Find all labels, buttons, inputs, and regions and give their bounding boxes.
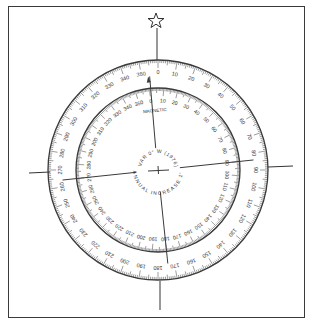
degree-label: 30 bbox=[182, 102, 190, 110]
degree-tick bbox=[96, 116, 98, 118]
degree-tick bbox=[248, 110, 251, 112]
degree-label: 110 bbox=[222, 182, 230, 192]
degree-tick bbox=[203, 235, 205, 237]
degree-tick bbox=[52, 197, 57, 198]
degree-tick bbox=[221, 81, 223, 83]
degree-tick bbox=[219, 221, 221, 223]
true-east-line bbox=[268, 166, 293, 167]
degree-tick bbox=[117, 238, 119, 241]
degree-tick bbox=[112, 70, 114, 75]
degree-tick bbox=[188, 95, 191, 102]
degree-tick bbox=[163, 88, 164, 96]
degree-tick bbox=[206, 106, 209, 110]
degree-tick bbox=[110, 266, 111, 269]
degree-tick bbox=[222, 255, 224, 257]
degree-tick bbox=[86, 208, 89, 209]
degree-tick bbox=[84, 202, 91, 206]
degree-tick bbox=[108, 105, 110, 107]
degree-tick bbox=[253, 214, 258, 216]
degree-tick bbox=[224, 86, 229, 92]
degree-tick bbox=[106, 230, 109, 234]
degree-label: 40 bbox=[193, 108, 201, 116]
degree-tick bbox=[214, 112, 216, 114]
degree-tick bbox=[224, 254, 226, 256]
degree-label: 160 bbox=[183, 228, 194, 237]
degree-label: 20 bbox=[171, 99, 178, 106]
degree-tick bbox=[84, 134, 87, 135]
degree-label: 290 bbox=[62, 131, 71, 142]
degree-tick bbox=[241, 101, 243, 103]
degree-tick bbox=[90, 83, 92, 85]
degree-label: 60 bbox=[238, 117, 246, 125]
degree-tick bbox=[116, 238, 118, 241]
degree-tick bbox=[236, 236, 242, 241]
degree-tick bbox=[70, 234, 72, 236]
degree-tick bbox=[246, 221, 253, 225]
degree-tick bbox=[79, 94, 81, 96]
degree-label: 60 bbox=[210, 125, 218, 133]
degree-label: 290 bbox=[86, 148, 94, 158]
degree-tick bbox=[70, 104, 72, 106]
degree-tick bbox=[115, 100, 117, 103]
degree-tick bbox=[225, 134, 232, 138]
degree-label: 200 bbox=[119, 257, 130, 266]
degree-tick bbox=[102, 228, 104, 230]
degree-tick bbox=[105, 231, 107, 233]
degree-label: 80 bbox=[221, 147, 228, 154]
magnetic-label: MAGNETIC bbox=[143, 107, 168, 115]
degree-tick bbox=[212, 110, 214, 112]
degree-tick bbox=[106, 106, 108, 108]
degree-label: 150 bbox=[194, 221, 205, 231]
degree-tick bbox=[62, 222, 65, 223]
degree-tick bbox=[103, 229, 105, 231]
degree-tick bbox=[87, 86, 92, 92]
degree-tick bbox=[108, 72, 109, 75]
degree-tick bbox=[201, 236, 203, 239]
degree-label: 50 bbox=[202, 116, 210, 124]
degree-tick bbox=[98, 260, 100, 263]
degree-tick bbox=[103, 109, 105, 111]
degree-tick bbox=[212, 228, 214, 230]
degree-tick bbox=[170, 89, 171, 94]
degree-tick bbox=[59, 217, 62, 218]
degree-tick bbox=[224, 83, 226, 85]
degree-tick bbox=[139, 270, 140, 278]
degree-tick bbox=[195, 240, 196, 243]
degree-tick bbox=[259, 197, 264, 198]
degree-tick bbox=[211, 109, 213, 111]
degree-label: 350 bbox=[136, 70, 146, 78]
degree-tick bbox=[218, 222, 220, 224]
magnetic-south-line bbox=[160, 192, 168, 264]
degree-tick bbox=[226, 200, 233, 203]
degree-label: 260 bbox=[87, 184, 95, 194]
degree-tick bbox=[228, 132, 231, 133]
degree-tick bbox=[236, 243, 238, 245]
degree-tick bbox=[242, 102, 244, 104]
degree-tick bbox=[225, 212, 228, 214]
degree-tick bbox=[217, 115, 219, 117]
degree-tick bbox=[211, 229, 213, 231]
degree-label: 260 bbox=[58, 182, 66, 192]
magnetic-west-line bbox=[63, 172, 137, 180]
degree-tick bbox=[96, 221, 100, 224]
degree-tick bbox=[219, 117, 221, 119]
degree-tick bbox=[83, 248, 85, 250]
degree-label: 10 bbox=[160, 97, 166, 103]
degree-tick bbox=[245, 105, 247, 107]
degree-tick bbox=[235, 244, 237, 246]
degree-tick bbox=[82, 91, 84, 93]
degree-tick bbox=[89, 253, 91, 255]
degree-tick bbox=[58, 214, 63, 216]
degree-tick bbox=[247, 108, 249, 110]
degree-tick bbox=[108, 232, 110, 234]
degree-label: 300 bbox=[69, 116, 79, 127]
degree-tick bbox=[100, 77, 102, 80]
degree-tick bbox=[92, 122, 94, 124]
degree-tick bbox=[176, 62, 177, 70]
degree-tick bbox=[109, 233, 111, 235]
degree-tick bbox=[225, 253, 227, 255]
degree-label: 80 bbox=[251, 150, 258, 157]
degree-tick bbox=[226, 129, 229, 131]
degree-tick bbox=[198, 238, 200, 241]
degree-label: 100 bbox=[224, 170, 231, 179]
